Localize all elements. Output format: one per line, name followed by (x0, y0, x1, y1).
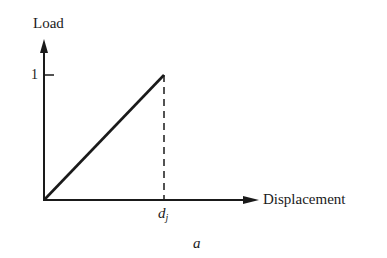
load-displacement-diagram: Load 1 Displacement dj a (0, 0, 387, 258)
x-axis-arrowhead-icon (243, 196, 259, 204)
figure-caption: a (193, 236, 201, 251)
load-line (45, 75, 164, 199)
x-tick-subscript: j (166, 212, 169, 223)
diagram-canvas (0, 0, 387, 258)
x-axis-label: Displacement (263, 192, 345, 207)
y-axis-label: Load (33, 16, 64, 31)
x-tick-base: d (158, 205, 166, 221)
x-tick-label-dj: dj (158, 206, 168, 223)
y-axis-arrowhead-icon (40, 39, 48, 53)
y-tick-label: 1 (31, 68, 38, 82)
